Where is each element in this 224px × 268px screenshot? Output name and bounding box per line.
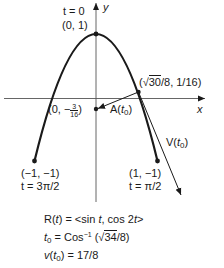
equations-block: R(t) = <sin t, cos 2t> t0 = Cos−1 (√34/8… [44,212,143,266]
point-accel-tip [94,107,98,111]
point-top [94,32,99,37]
x-axis-label: x [197,103,203,115]
point-right-end [155,159,160,164]
left-end-param-label: t = 3π/2 [21,180,59,192]
position-equation: R(t) = <sin t, cos 2t> [44,212,143,227]
point-left-end [32,159,37,164]
point-t0 [136,90,140,94]
velocity-label: V(t0) [166,136,188,152]
t0-equation: t0 = Cos−1 (√34/8) [44,227,143,248]
speed-equation: v(t0) = 17/8 [44,248,143,266]
right-end-coords-label: (1, −1) [129,167,161,179]
left-end-coords-label: (−1, −1) [21,167,60,179]
right-end-param-label: t = π/2 [129,180,161,192]
acceleration-label: A(t0) [110,103,132,119]
top-coords-label: (0, 1) [62,19,88,31]
accel-tip-label: (0, −316) [48,103,82,118]
t0-coords-label: (√30/8, 1/16) [139,76,201,88]
top-param-label: t = 0 [63,5,85,17]
y-axis-label: y [103,1,109,13]
